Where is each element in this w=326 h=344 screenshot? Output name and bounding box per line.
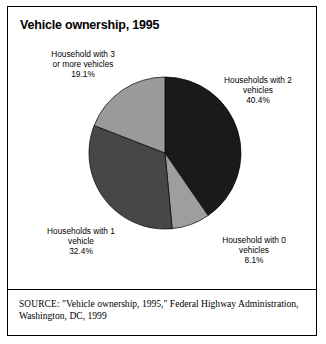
- chart-area: Vehicle ownership, 1995 Household with 3…: [8, 7, 316, 289]
- source-citation: "Vehicle ownership, 1995," Federal Highw…: [19, 298, 299, 321]
- pie-label-two-vehicles: Households with 2vehicles40.4%: [204, 75, 312, 106]
- pie-label-zero-vehicles: Household with 0vehicles8.1%: [198, 235, 310, 266]
- pie-label-one-vehicle: Households with 1vehicle32.4%: [22, 226, 140, 257]
- source-block: SOURCE: "Vehicle ownership, 1995," Feder…: [8, 290, 316, 335]
- figure-panel: Vehicle ownership, 1995 Household with 3…: [7, 6, 317, 336]
- source-note: SOURCE: "Vehicle ownership, 1995," Feder…: [19, 298, 306, 323]
- source-label: SOURCE:: [19, 299, 60, 309]
- pie-label-three-or-more-vehicles: Household with 3or more vehicles19.1%: [24, 49, 142, 80]
